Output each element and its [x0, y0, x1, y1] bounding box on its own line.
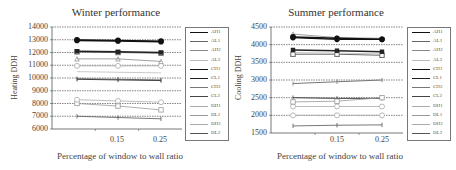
legend-item-ch2: CH2 — [186, 83, 228, 92]
legend-swatch-icon — [412, 60, 430, 61]
summer-x-tick-0.15: 0.15 — [330, 135, 344, 144]
legend-swatch-icon — [190, 124, 208, 125]
y-tick-label: 6000 — [20, 124, 48, 133]
legend-swatch-icon — [412, 87, 430, 88]
winter-x-tick-0.15: 0.15 — [110, 135, 124, 144]
legend-swatch-icon — [190, 115, 208, 116]
legend-swatch-icon — [412, 69, 430, 70]
legend-label: DH1 — [211, 103, 221, 108]
legend-swatch-icon — [190, 69, 208, 70]
legend-item-ah2: AH2 — [408, 46, 450, 55]
legend-label: CH2 — [211, 84, 220, 89]
summer-x-tick-0.25: 0.25 — [375, 135, 389, 144]
legend-item-ch1: CH1 — [408, 65, 450, 74]
legend-item-al1: AL1 — [408, 37, 450, 46]
legend-label: CL2 — [211, 93, 220, 98]
y-tick-label: 13000 — [20, 35, 48, 44]
legend-item-cl2: CL2 — [408, 92, 450, 101]
y-tick-label: 2000 — [239, 110, 267, 119]
legend-item-dh1: DH1 — [186, 102, 228, 111]
y-tick-label: 3000 — [239, 75, 267, 84]
legend-label: DH2 — [433, 121, 443, 126]
y-tick-label: 1500 — [239, 128, 267, 137]
y-tick-label: 7000 — [20, 111, 48, 120]
winter-legend: AH1AL1AH2AL2CH1CL1CH2CL2DH1DL1DH2DL2 — [185, 27, 229, 141]
legend-swatch-icon — [190, 50, 208, 51]
y-tick-label: 3500 — [239, 57, 267, 66]
y-tick-label: 4500 — [239, 22, 267, 31]
legend-label: CH1 — [433, 66, 442, 71]
legend-label: DH1 — [433, 103, 443, 108]
legend-label: CH2 — [433, 84, 442, 89]
legend-label: AH1 — [211, 29, 221, 34]
y-tick-label: 2500 — [239, 93, 267, 102]
legend-item-dl1: DL1 — [408, 111, 450, 120]
legend-swatch-icon — [412, 124, 430, 125]
legend-label: CH1 — [211, 66, 220, 71]
legend-label: AH1 — [433, 29, 443, 34]
legend-item-cl1: CL1 — [408, 74, 450, 83]
legend-swatch-icon — [412, 32, 430, 33]
legend-item-ch2: CH2 — [408, 83, 450, 92]
legend-item-dh2: DH2 — [408, 120, 450, 129]
summer-x-axis-label: Percentage of window to wall ratio — [260, 151, 420, 161]
legend-swatch-icon — [190, 133, 208, 134]
summer-chart: Summer performance Cooling DDH 450040003… — [228, 0, 456, 170]
legend-label: DL1 — [211, 112, 220, 117]
legend-label: AL2 — [433, 57, 442, 62]
legend-swatch-icon — [190, 96, 208, 97]
legend-item-dl2: DL2 — [408, 129, 450, 138]
legend-label: AL1 — [211, 38, 220, 43]
y-tick-label: 12000 — [20, 48, 48, 57]
legend-item-al2: AL2 — [186, 56, 228, 65]
legend-swatch-icon — [190, 87, 208, 88]
legend-item-dl1: DL1 — [186, 111, 228, 120]
legend-swatch-icon — [412, 78, 430, 79]
legend-swatch-icon — [190, 32, 208, 33]
legend-label: DH2 — [211, 121, 221, 126]
legend-label: AL1 — [433, 38, 442, 43]
legend-label: CL1 — [433, 75, 442, 80]
legend-swatch-icon — [190, 41, 208, 42]
legend-label: CL1 — [211, 75, 220, 80]
legend-swatch-icon — [412, 96, 430, 97]
legend-item-dh2: DH2 — [186, 120, 228, 129]
legend-label: AH2 — [433, 47, 443, 52]
y-tick-label: 4000 — [239, 40, 267, 49]
legend-swatch-icon — [412, 133, 430, 134]
legend-swatch-icon — [412, 50, 430, 51]
y-tick-label: 9000 — [20, 86, 48, 95]
legend-item-ah1: AH1 — [408, 28, 450, 37]
summer-legend: AH1AL1AH2AL2CH1CL1CH2CL2DH1DL1DH2DL2 — [407, 27, 451, 141]
winter-x-tick-0.25: 0.25 — [153, 135, 167, 144]
legend-item-cl1: CL1 — [186, 74, 228, 83]
legend-item-cl2: CL2 — [186, 92, 228, 101]
legend-item-dl2: DL2 — [186, 129, 228, 138]
legend-swatch-icon — [190, 106, 208, 107]
legend-item-al1: AL1 — [186, 37, 228, 46]
y-tick-label: 10000 — [20, 73, 48, 82]
y-tick-label: 14000 — [20, 22, 48, 31]
legend-label: DL2 — [211, 130, 220, 135]
legend-swatch-icon — [190, 60, 208, 61]
legend-swatch-icon — [190, 78, 208, 79]
winter-chart: Winter performance Heating DDH 140001300… — [0, 0, 228, 170]
legend-swatch-icon — [412, 41, 430, 42]
legend-item-ch1: CH1 — [186, 65, 228, 74]
legend-item-ah1: AH1 — [186, 28, 228, 37]
legend-swatch-icon — [412, 115, 430, 116]
y-tick-label: 11000 — [20, 60, 48, 69]
legend-label: DL1 — [433, 112, 442, 117]
legend-label: CL2 — [433, 93, 442, 98]
legend-item-al2: AL2 — [408, 56, 450, 65]
winter-x-axis-label: Percentage of window to wall ratio — [40, 151, 200, 161]
legend-item-dh1: DH1 — [408, 102, 450, 111]
y-tick-label: 8000 — [20, 99, 48, 108]
legend-label: AL2 — [211, 57, 220, 62]
legend-swatch-icon — [412, 106, 430, 107]
legend-item-ah2: AH2 — [186, 46, 228, 55]
legend-label: AH2 — [211, 47, 221, 52]
legend-label: DL2 — [433, 130, 442, 135]
